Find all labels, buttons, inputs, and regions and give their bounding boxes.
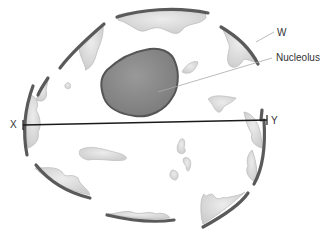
label-x: X bbox=[10, 119, 17, 130]
nucleus-diagram: W Nucleolus X Y bbox=[0, 0, 323, 237]
label-w: W bbox=[277, 27, 287, 38]
label-y: Y bbox=[271, 115, 278, 126]
xy-line bbox=[23, 120, 267, 125]
label-nucleolus: Nucleolus bbox=[276, 52, 320, 63]
nucleolus bbox=[101, 49, 178, 117]
w-pointer bbox=[256, 32, 274, 42]
